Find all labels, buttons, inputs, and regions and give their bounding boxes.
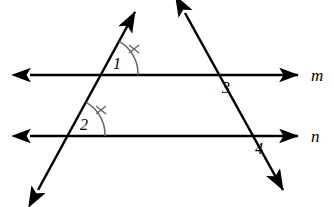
geometry-canvas xyxy=(0,0,334,207)
line-label-n: n xyxy=(311,128,320,145)
transversal-left xyxy=(38,12,135,190)
angle-label-3: 3 xyxy=(222,80,230,96)
angle-1-arc xyxy=(119,41,138,75)
angle-2-arc xyxy=(86,102,105,136)
angle-label-2: 2 xyxy=(80,117,88,133)
line-label-m: m xyxy=(311,67,323,84)
geometry-figure: m n 1 2 3 4 xyxy=(0,0,334,207)
transversal-right xyxy=(185,13,283,190)
angle-label-1: 1 xyxy=(113,56,121,72)
angle-label-4: 4 xyxy=(255,141,263,157)
